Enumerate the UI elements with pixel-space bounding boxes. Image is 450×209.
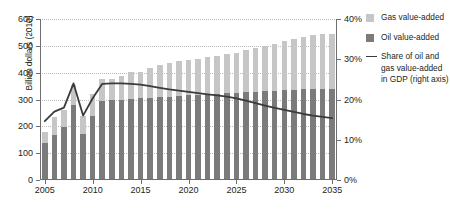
y2-tick-label: 20% [344,95,362,105]
y-tick [36,153,40,154]
legend-label-oil: Oil value-added [381,32,439,42]
legend-label-share-1: Share of oil and [381,51,439,61]
y2-tick-label: 40% [344,14,362,24]
legend-item-share: Share of oil and gas value-added in GDP … [366,51,450,86]
legend-item-gas: Gas value-added [366,12,450,24]
y-tick-label: 500 [18,41,33,51]
y-tick [36,126,40,127]
y2-tick [337,100,341,101]
y-tick-label: 400 [18,68,33,78]
y-tick [36,46,40,47]
x-tick [45,180,46,184]
legend-label-share-2: gas value-added [381,63,442,73]
y2-tick-label: 10% [344,135,362,145]
oil-swatch [366,34,374,42]
y-axis-left [40,19,41,180]
y-tick-label: 100 [18,148,33,158]
y2-tick [337,59,341,60]
legend-label-share-3: in GDP (right axis) [381,74,449,84]
gas-swatch [366,14,374,22]
y-tick [36,100,40,101]
x-tick [284,180,285,184]
x-tick-label: 2030 [274,185,294,195]
y-tick-label: 600 [18,14,33,24]
x-tick-label: 2010 [83,185,103,195]
x-tick [93,180,94,184]
x-tick-label: 2015 [131,185,151,195]
y2-tick [337,180,341,181]
x-tick [332,180,333,184]
y2-tick [337,19,341,20]
y-tick [36,180,40,181]
legend-item-oil: Oil value-added [366,32,450,44]
x-tick [141,180,142,184]
line-series [40,19,337,180]
x-tick-label: 2005 [35,185,55,195]
y-tick-label: 0 [28,175,33,185]
y-tick [36,73,40,74]
y2-tick [337,140,341,141]
y-tick-label: 200 [18,121,33,131]
x-tick-label: 2035 [322,185,342,195]
share-line-path [45,83,332,121]
legend-label-gas: Gas value-added [381,12,444,22]
y2-tick-label: 0% [344,175,357,185]
plot-area: 0100200300400500600 0%10%20%30%40% 20052… [40,19,337,180]
x-tick [189,180,190,184]
x-tick-label: 2025 [226,185,246,195]
y-tick-label: 300 [18,95,33,105]
y-tick [36,19,40,20]
x-tick-label: 2020 [178,185,198,195]
y2-tick-label: 30% [344,54,362,64]
line-swatch [366,56,377,57]
chart-legend: Gas value-added Oil value-added Share of… [366,12,450,94]
x-tick [236,180,237,184]
